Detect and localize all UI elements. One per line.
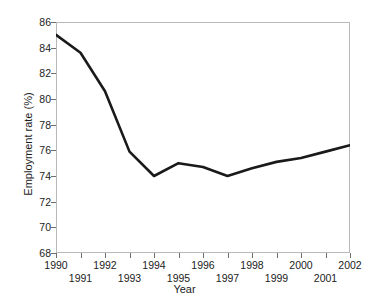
x-tick-mark bbox=[154, 253, 155, 258]
y-tick-label: 82 bbox=[39, 68, 51, 78]
x-tick-label: 1990 bbox=[44, 259, 67, 271]
x-tick-mark bbox=[203, 253, 204, 258]
x-tick-label: 1994 bbox=[142, 259, 165, 271]
y-tick-label: 84 bbox=[39, 43, 51, 53]
y-tick-mark bbox=[51, 150, 56, 151]
y-tick-mark bbox=[51, 227, 56, 228]
y-tick-label: 70 bbox=[39, 222, 51, 232]
chart-data-layer bbox=[56, 22, 350, 253]
x-tick-mark bbox=[81, 253, 82, 258]
y-tick-label: 74 bbox=[39, 171, 51, 181]
y-tick-mark bbox=[51, 22, 56, 23]
x-tick-label: 2000 bbox=[289, 259, 312, 271]
y-tick-mark bbox=[51, 73, 56, 74]
y-tick-mark bbox=[51, 99, 56, 100]
x-tick-mark bbox=[350, 253, 351, 258]
x-tick-mark bbox=[56, 253, 57, 258]
y-tick-label: 72 bbox=[39, 197, 51, 207]
y-tick-label: 86 bbox=[39, 17, 51, 27]
y-tick-label: 76 bbox=[39, 145, 51, 155]
x-tick-mark bbox=[179, 253, 180, 258]
y-tick-label: 78 bbox=[39, 120, 51, 130]
y-axis-title: Employment rate (%) bbox=[22, 54, 34, 234]
x-tick-mark bbox=[130, 253, 131, 258]
employment-rate-line bbox=[56, 35, 350, 176]
y-tick-mark bbox=[51, 202, 56, 203]
y-tick-label: 80 bbox=[39, 94, 51, 104]
x-tick-mark bbox=[252, 253, 253, 258]
x-tick-label: 2002 bbox=[338, 259, 361, 271]
x-tick-label: 1992 bbox=[93, 259, 116, 271]
x-tick-mark bbox=[301, 253, 302, 258]
x-tick-mark bbox=[105, 253, 106, 258]
y-tick-mark bbox=[51, 48, 56, 49]
employment-rate-line-chart: 86848280787674727068 1990199219941996199… bbox=[0, 0, 369, 299]
x-tick-mark bbox=[326, 253, 327, 258]
x-tick-label: 1998 bbox=[240, 259, 263, 271]
y-tick-mark bbox=[51, 176, 56, 177]
y-tick-label: 68 bbox=[39, 248, 51, 258]
x-axis-title: Year bbox=[0, 283, 369, 295]
x-tick-mark bbox=[228, 253, 229, 258]
y-tick-mark bbox=[51, 125, 56, 126]
x-tick-mark bbox=[277, 253, 278, 258]
x-tick-label: 1996 bbox=[191, 259, 214, 271]
